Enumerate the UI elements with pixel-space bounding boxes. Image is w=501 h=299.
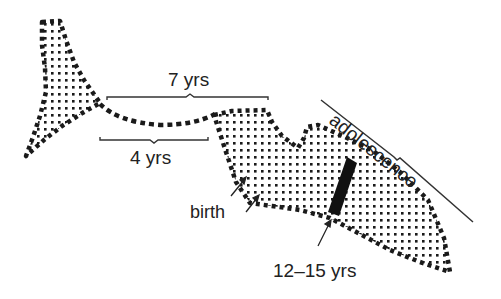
bracket-7yrs — [107, 94, 268, 100]
diagram-canvas: 7 yrs 4 yrs birth 12–15 yrs adolescence — [0, 0, 501, 299]
body-shape — [214, 110, 450, 272]
age-12-15-arrow — [318, 220, 331, 246]
tail-shape — [26, 21, 100, 156]
diagram-svg — [0, 0, 501, 299]
bracket-4yrs — [100, 137, 208, 143]
label-4-years: 4 yrs — [130, 148, 171, 167]
label-birth: birth — [190, 203, 225, 221]
cord-shape — [100, 104, 215, 125]
label-12-15-years: 12–15 yrs — [273, 261, 356, 280]
label-7-years: 7 yrs — [168, 70, 209, 89]
